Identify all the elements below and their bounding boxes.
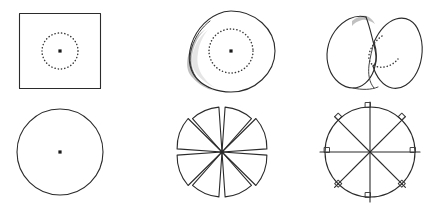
figure-container (0, 0, 444, 203)
center-dot (58, 150, 61, 153)
panel-sectors-overlapped (320, 102, 420, 202)
figure-background (0, 0, 444, 203)
figure-canvas (0, 0, 444, 203)
center-dot (229, 49, 232, 52)
center-dot (58, 49, 61, 52)
